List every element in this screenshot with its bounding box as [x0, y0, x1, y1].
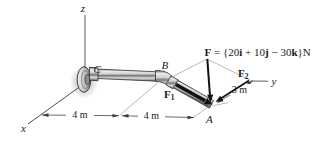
f2-subscript: 2	[245, 72, 249, 81]
eq-part4: }N	[298, 46, 311, 58]
dimension-label-4m-left: 4 m	[72, 109, 88, 120]
statics-pipe-force-figure: 4 m 4 m 3 m z y x C B A F1 F2 F = {20i +…	[0, 0, 326, 150]
dimension-label-4m-right: 4 m	[144, 110, 160, 121]
y-axis-label: y	[271, 75, 277, 87]
flange-hub	[85, 75, 90, 85]
eq-part2: + 10	[242, 46, 265, 58]
force-f-arrow	[207, 59, 213, 103]
point-a-label: A	[205, 113, 213, 125]
point-b-label: B	[162, 59, 169, 71]
force-f1-arrow	[176, 85, 213, 105]
point-c-label: C	[94, 63, 102, 75]
eq-part3: − 30	[269, 46, 292, 58]
eq-part1: = {20	[211, 46, 239, 58]
x-axis-label: x	[20, 122, 26, 134]
dim-arrow-right-icon	[113, 114, 120, 118]
force-equation: F = {20i + 10j − 30k}N	[205, 46, 311, 58]
z-axis-label: z	[80, 2, 86, 14]
dim-arrow-right-icon	[188, 116, 195, 120]
force-f1-label: F1	[164, 88, 175, 103]
f1-subscript: 1	[171, 93, 175, 102]
force-f2-label: F2	[238, 67, 249, 82]
dim-arrow-left-icon	[122, 114, 129, 118]
statics-diagram: 4 m 4 m 3 m z y x C B A F1 F2 F = {20i +…	[0, 0, 326, 150]
dim-arrow-left-icon	[42, 113, 49, 117]
